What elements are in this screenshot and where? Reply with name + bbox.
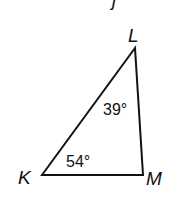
partial-label-top: j xyxy=(109,0,117,10)
vertex-label-m: M xyxy=(146,168,162,189)
triangle-diagram: j L K M 39° 54° xyxy=(0,0,188,199)
vertex-label-k: K xyxy=(18,167,32,188)
triangle-klm xyxy=(42,48,143,175)
angle-label-l: 39° xyxy=(103,101,127,118)
angle-label-k: 54° xyxy=(66,153,90,170)
vertex-label-l: L xyxy=(128,25,139,46)
